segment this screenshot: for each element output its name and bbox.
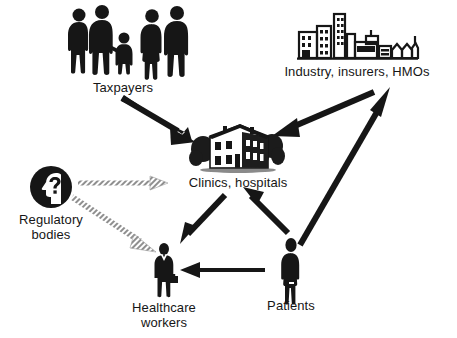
node-regulatory[interactable]: Regulatory bodies [28, 164, 74, 210]
node-clinics[interactable]: Clinics, hospitals [190, 116, 284, 174]
node-industry[interactable]: Industry, insurers, HMOs [296, 12, 418, 60]
hospital-building-icon [190, 116, 284, 174]
arrow-patients-to-healthcare-workers [180, 262, 265, 278]
arrow-patients-to-industry [300, 87, 390, 245]
node-label-industry: Industry, insurers, HMOs [266, 64, 448, 79]
worker-suit-icon [148, 243, 180, 297]
people-group-icon [58, 6, 188, 78]
node-label-regulatory-line2: bodies [32, 227, 71, 242]
person-standing-icon [276, 238, 306, 296]
head-question-circle-icon [28, 164, 74, 210]
node-label-regulatory-line1: Regulatory [19, 212, 83, 227]
arrow-regulatory-to-clinics [78, 176, 168, 190]
arrow-industry-to-clinics [272, 92, 374, 137]
diagram-canvas: Taxpayers [0, 0, 457, 338]
arrow-patients-to-clinics [243, 187, 288, 233]
city-skyline-icon [296, 12, 418, 60]
node-label-patients: Patients [254, 298, 328, 313]
node-label-healthcare-workers-line2: workers [141, 315, 187, 330]
arrow-clinics-to-healthcare-workers [180, 195, 225, 244]
node-label-regulatory: Regulatory bodies [1, 212, 101, 242]
node-label-taxpayers: Taxpayers [58, 80, 188, 95]
node-label-healthcare-workers: Healthcare workers [112, 300, 216, 330]
node-healthcare-workers[interactable]: Healthcare workers [148, 243, 180, 297]
node-label-clinics: Clinics, hospitals [182, 175, 294, 190]
node-label-healthcare-workers-line1: Healthcare [132, 300, 196, 315]
arrow-taxpayers-to-clinics [121, 95, 196, 145]
node-patients[interactable]: Patients [276, 238, 306, 296]
node-taxpayers[interactable]: Taxpayers [58, 6, 188, 78]
